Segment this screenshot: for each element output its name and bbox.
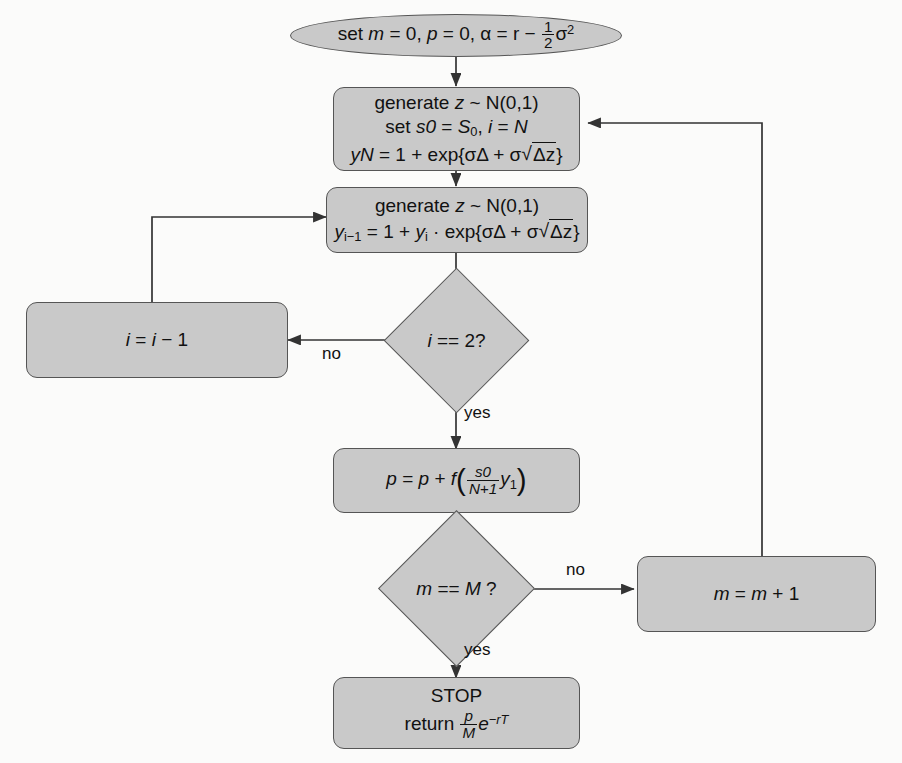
init-line-2: set s0 = S0, i = N [350,115,562,141]
stop-line-1: STOP [405,684,509,709]
stop-line-2: return pMe−rT [405,709,509,742]
edge-decr-i-loop-back [152,217,326,302]
accumulate-payoff-node: p = p + f(s0N+1y1) [333,448,580,513]
increment-m-node: m = m + 1 [637,556,876,632]
init-line-1: generate z ~ N(0,1) [350,91,562,116]
decrement-i-node: i = i − 1 [26,302,288,378]
initialize-path-text: generate z ~ N(0,1) set s0 = S0, i = N y… [350,91,562,168]
recursion-step-text: generate z ~ N(0,1) yi−1 = 1 + yi · exp{… [334,194,579,246]
m-equals-M-decision-label: m == M ? [401,533,512,644]
edge-label-no-i: no [322,344,341,364]
i-equals-two-decision: i == 2? [405,289,508,392]
flowchart-canvas: set m = 0, p = 0, α = r − 12σ2 generate … [0,0,902,763]
start-node: set m = 0, p = 0, α = r − 12σ2 [290,14,622,57]
edge-label-no-m: no [566,560,585,580]
step-line-2: yi−1 = 1 + yi · exp{σΔ + σΔz} [334,219,579,246]
edge-label-yes-i: yes [464,403,490,423]
stop-node-text: STOP return pMe−rT [405,684,509,741]
recursion-step-node: generate z ~ N(0,1) yi−1 = 1 + yi · exp{… [326,187,588,253]
step-line-1: generate z ~ N(0,1) [334,194,579,219]
init-line-3: yN = 1 + exp{σΔ + σΔz} [350,142,562,168]
decrement-i-text: i = i − 1 [126,328,188,353]
initialize-path-node: generate z ~ N(0,1) set s0 = S0, i = N y… [333,87,580,171]
m-equals-M-decision: m == M ? [401,533,512,644]
start-node-text: set m = 0, p = 0, α = r − 12σ2 [338,19,575,52]
i-equals-two-decision-label: i == 2? [405,289,508,392]
edge-incr-m-loop-back [588,123,762,557]
edge-label-yes-m: yes [464,640,490,660]
increment-m-text: m = m + 1 [714,582,800,607]
accumulate-payoff-text: p = p + f(s0N+1y1) [386,461,526,499]
stop-node: STOP return pMe−rT [333,677,580,749]
